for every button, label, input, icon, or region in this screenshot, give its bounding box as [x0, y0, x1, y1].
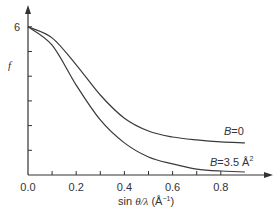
series-label-b-0-symbol: B: [224, 125, 231, 137]
series-label-b-3-5-value: =3.5 Å: [217, 156, 250, 168]
series-label-b-3-5-sup: 2: [249, 155, 253, 162]
y-axis-arrow-icon: [25, 5, 31, 14]
x-tick-label: 0.4: [117, 181, 132, 193]
x-tick-labels: 0.00.20.40.60.8: [20, 181, 228, 193]
x-axis-label-close: ): [170, 195, 174, 207]
curve-b-0: [28, 27, 245, 143]
series-label-b-0: B=0: [224, 125, 244, 137]
form-factor-chart: 6 f 0.00.20.40.60.8 sin θ/λ (Å−1) B=0 B=…: [0, 0, 276, 217]
series-label-b-0-value: =0: [231, 125, 244, 137]
x-tick-label: 0.8: [213, 181, 228, 193]
curve-b-3-5: [28, 27, 245, 172]
x-axis-label-unit-sup: −1: [162, 195, 170, 202]
y-axis-label: f: [8, 59, 13, 71]
x-axis-label-prefix: sin: [118, 195, 135, 207]
series-label-b-3-5-symbol: B: [210, 156, 217, 168]
x-axis-label: sin θ/λ (Å−1): [118, 195, 174, 207]
x-axis-label-theta: θ/λ: [135, 195, 148, 207]
x-axis-label-unit: (Å: [148, 195, 163, 207]
curves: [28, 27, 245, 172]
y-axis: 6 f: [8, 5, 32, 175]
x-axis-arrow-icon: [264, 172, 273, 178]
series-label-b-3-5: B=3.5 Å2: [210, 155, 253, 168]
x-tick-label: 0.6: [165, 181, 180, 193]
x-axis: 0.00.20.40.60.8 sin θ/λ (Å−1): [20, 171, 273, 207]
y-tick-label-6: 6: [14, 21, 20, 33]
x-tick-label: 0.2: [69, 181, 84, 193]
x-tick-label: 0.0: [20, 181, 35, 193]
